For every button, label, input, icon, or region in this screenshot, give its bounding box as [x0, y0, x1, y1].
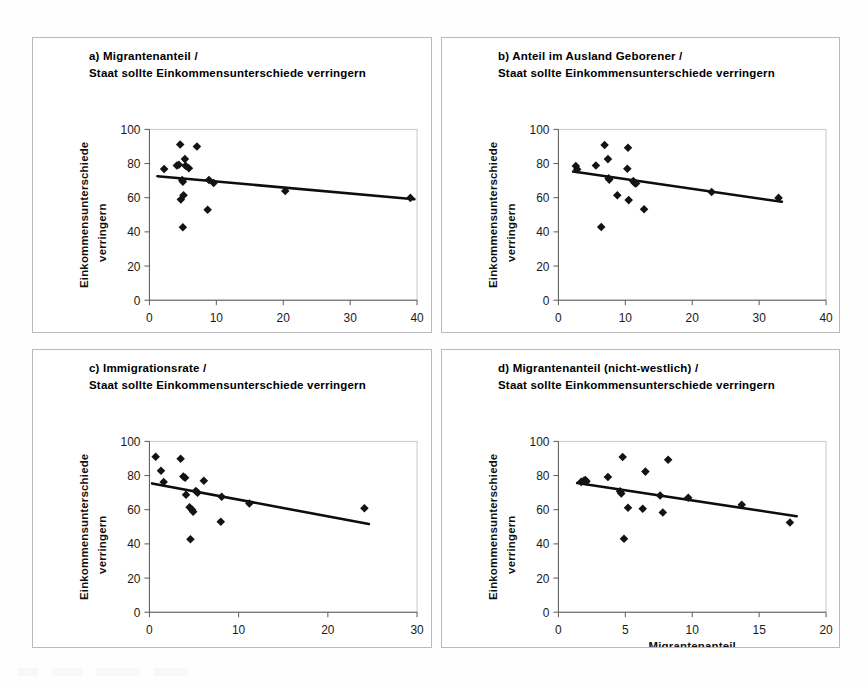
- chart-panel-a: a) Migrantenanteil / Staat sollte Einkom…: [32, 37, 432, 333]
- data-point-7: [618, 453, 627, 462]
- chart-panel-d: d) Migrantenanteil (nicht-westlich) / St…: [441, 349, 840, 648]
- data-point-2: [592, 161, 601, 170]
- data-point-7: [179, 223, 188, 232]
- y-tick-label-100: 100: [121, 123, 141, 137]
- y-tick-label-100: 100: [121, 435, 141, 449]
- data-point-13: [203, 206, 212, 215]
- data-point-12: [656, 491, 665, 500]
- data-point-11: [624, 196, 633, 205]
- data-point-16: [707, 188, 716, 197]
- page-footer-artifact: [18, 668, 188, 676]
- data-point-4: [600, 141, 609, 150]
- x-tick-label-0: 0: [555, 311, 562, 325]
- data-point-14: [664, 456, 673, 465]
- x-tick-label-10: 10: [619, 311, 633, 325]
- y-tick-label-20: 20: [127, 572, 141, 586]
- x-tick-label-20: 20: [686, 311, 700, 325]
- y-tick-label-60: 60: [127, 503, 141, 517]
- data-point-14: [217, 517, 226, 526]
- x-tick-label-40: 40: [410, 311, 424, 325]
- y-tick-label-0: 0: [134, 294, 141, 308]
- data-point-1: [157, 466, 166, 475]
- data-point-8: [186, 535, 195, 544]
- y-tick-label-0: 0: [134, 606, 141, 620]
- plot-area-frame: [558, 129, 826, 300]
- y-axis-title-line2: verringern: [505, 515, 517, 573]
- plot-area-frame: [558, 441, 826, 612]
- data-point-8: [613, 191, 622, 200]
- data-point-17: [786, 518, 795, 527]
- data-point-4: [604, 473, 613, 482]
- y-tick-label-100: 100: [530, 435, 550, 449]
- x-tick-label-0: 0: [146, 311, 153, 325]
- data-point-9: [623, 164, 632, 173]
- x-tick-label-10: 10: [686, 623, 700, 637]
- panel-b-plot: 020406080100010203040Einkommensunterschi…: [442, 38, 839, 332]
- y-tick-label-100: 100: [530, 123, 550, 137]
- figure-panel-grid: a) Migrantenanteil / Staat sollte Einkom…: [0, 0, 868, 684]
- y-tick-label-0: 0: [543, 606, 550, 620]
- data-point-15: [217, 492, 226, 501]
- data-point-3: [176, 140, 185, 149]
- data-point-8: [620, 534, 629, 543]
- y-tick-label-80: 80: [127, 469, 141, 483]
- x-tick-label-5: 5: [622, 623, 629, 637]
- x-tick-label-20: 20: [277, 311, 291, 325]
- panel-d-plot: 02040608010005101520Einkommensunterschie…: [442, 350, 839, 647]
- y-tick-label-80: 80: [536, 157, 550, 171]
- y-axis-title-line1: Einkommensunterschiede: [78, 454, 90, 600]
- data-point-17: [360, 504, 369, 513]
- y-tick-label-80: 80: [127, 157, 141, 171]
- y-axis-title-line2: verringern: [96, 203, 108, 261]
- x-tick-label-10: 10: [232, 623, 246, 637]
- y-tick-label-40: 40: [127, 225, 141, 239]
- y-tick-label-60: 60: [536, 191, 550, 205]
- y-tick-label-0: 0: [543, 294, 550, 308]
- y-tick-label-20: 20: [536, 572, 550, 586]
- y-tick-label-80: 80: [536, 469, 550, 483]
- data-point-9: [181, 155, 190, 164]
- y-tick-label-20: 20: [536, 260, 550, 274]
- x-tick-label-30: 30: [753, 311, 767, 325]
- data-point-6: [182, 490, 191, 499]
- chart-panel-c: c) Immigrationsrate / Staat sollte Einko…: [32, 349, 432, 648]
- data-point-15: [640, 205, 649, 214]
- data-point-13: [200, 476, 209, 485]
- panel-c-plot: 0204060801000102030Einkommensunterschied…: [33, 350, 431, 647]
- data-point-9: [624, 503, 633, 512]
- x-tick-label-20: 20: [819, 623, 833, 637]
- x-tick-label-0: 0: [555, 623, 562, 637]
- x-tick-label-30: 30: [344, 311, 358, 325]
- y-tick-label-60: 60: [127, 191, 141, 205]
- y-tick-label-60: 60: [536, 503, 550, 517]
- x-tick-label-30: 30: [410, 623, 424, 637]
- data-point-11: [641, 467, 650, 476]
- y-axis-title-line2: verringern: [505, 203, 517, 261]
- regression-line: [152, 483, 369, 524]
- x-tick-label-20: 20: [321, 623, 335, 637]
- data-point-10: [624, 143, 633, 152]
- y-axis-title-line1: Einkommensunterschiede: [487, 142, 499, 288]
- y-tick-label-40: 40: [127, 537, 141, 551]
- plot-area-frame: [149, 129, 417, 300]
- data-point-12: [193, 142, 202, 151]
- y-axis-title-line1: Einkommensunterschiede: [78, 142, 90, 288]
- x-axis-title-line1: Migrantenanteil: [649, 640, 736, 647]
- y-tick-label-40: 40: [536, 537, 550, 551]
- data-point-0: [160, 165, 169, 174]
- plot-area-frame: [149, 441, 417, 612]
- x-tick-label-10: 10: [210, 311, 224, 325]
- chart-panel-b: b) Anteil im Ausland Geborener / Staat s…: [441, 37, 840, 333]
- data-point-3: [176, 455, 185, 464]
- data-point-17: [406, 194, 415, 203]
- panel-a-plot: 020406080100010203040Einkommensunterschi…: [33, 38, 431, 332]
- regression-line: [573, 172, 782, 202]
- data-point-0: [151, 452, 160, 461]
- y-tick-label-20: 20: [127, 260, 141, 274]
- x-tick-label-40: 40: [819, 311, 833, 325]
- y-axis-title-line2: verringern: [96, 515, 108, 573]
- y-tick-label-40: 40: [536, 225, 550, 239]
- y-axis-title-line1: Einkommensunterschiede: [487, 454, 499, 600]
- data-point-5: [604, 155, 613, 164]
- x-tick-label-0: 0: [146, 623, 153, 637]
